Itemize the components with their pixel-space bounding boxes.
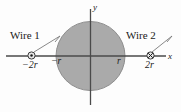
tick-label-neg-r: −r	[51, 57, 61, 67]
tick-label-pos-r: r	[117, 57, 121, 67]
physics-figure: y x −r r Wire 1 −2r Wire 2 2r	[0, 0, 181, 112]
figure-canvas	[0, 0, 181, 112]
y-axis-label: y	[93, 3, 97, 12]
wire-2-position-label: 2r	[145, 60, 154, 70]
wire-1-label: Wire 1	[10, 30, 40, 41]
wire-1-position-label: −2r	[22, 60, 38, 70]
wire-2-label: Wire 2	[126, 30, 156, 41]
x-axis-label: x	[168, 52, 172, 61]
